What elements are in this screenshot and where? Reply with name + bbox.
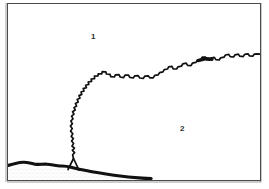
figure-container: 1 2 <box>0 0 269 189</box>
boundary-thick-knot <box>198 59 212 61</box>
figure-canvas <box>0 0 269 189</box>
region-label-2: 2 <box>180 125 184 133</box>
region-label-1: 1 <box>91 33 95 41</box>
page-background <box>0 0 269 189</box>
